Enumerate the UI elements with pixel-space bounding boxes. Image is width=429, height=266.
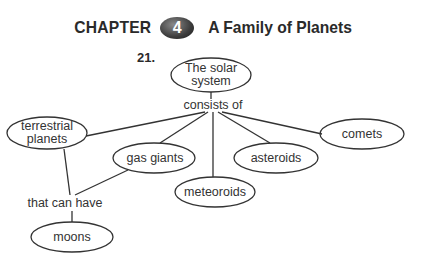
connector-terrestrial-moons [64,149,70,195]
node-gas-giants: gas giants [127,152,184,165]
node-solar-system-line2: system [185,75,237,88]
node-comets: comets [342,128,382,141]
node-solar-system: The solar system [185,62,237,88]
node-moons: moons [53,231,91,244]
node-terrestrial-planets: terrestrial planets [21,120,73,146]
link-that-can-have: that can have [27,197,102,210]
connector-gas-giants-moons [75,170,128,195]
link-consists-of: consists of [183,99,242,112]
connector-terrestrial [86,112,205,136]
node-meteoroids: meteoroids [184,186,246,199]
node-terrestrial-line2: planets [21,133,73,146]
node-asteroids: asteroids [251,152,302,165]
